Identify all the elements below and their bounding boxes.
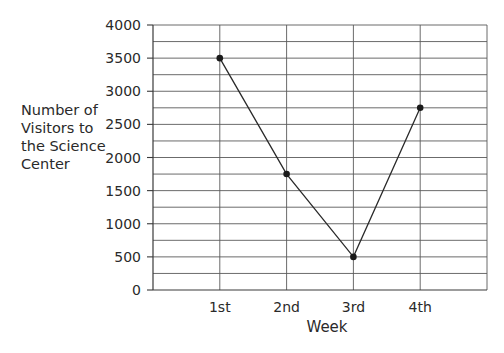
y-tick-label: 0 <box>132 282 141 298</box>
data-point-marker <box>217 55 224 62</box>
y-axis-title: Number of Visitors to the Science Center <box>21 101 106 173</box>
y-axis-title-line: Number of <box>21 101 106 119</box>
x-axis-ticks: 1st2nd3rd4th <box>209 299 432 315</box>
y-axis-title-line: Visitors to <box>21 119 106 137</box>
data-point-marker <box>350 254 357 261</box>
y-tick-label: 2500 <box>105 116 141 132</box>
y-tick-label: 4000 <box>105 17 141 33</box>
x-tick-label: 4th <box>409 299 432 315</box>
line-chart: 05001000150020002500300035004000 1st2nd3… <box>0 0 504 353</box>
x-tick-label: 1st <box>209 299 231 315</box>
y-tick-label: 3500 <box>105 50 141 66</box>
y-tick-label: 1500 <box>105 183 141 199</box>
y-tick-label: 3000 <box>105 83 141 99</box>
y-axis-title-line: the Science <box>21 137 106 155</box>
y-tick-label: 2000 <box>105 150 141 166</box>
y-tick-label: 1000 <box>105 216 141 232</box>
x-tick-label: 3rd <box>342 299 365 315</box>
x-tick-label: 2nd <box>273 299 300 315</box>
data-point-marker <box>283 171 290 178</box>
y-axis-title-line: Center <box>21 155 106 173</box>
data-point-marker <box>417 105 424 112</box>
grid-lines <box>153 25 487 290</box>
x-axis-title: Week <box>306 318 347 336</box>
y-tick-label: 500 <box>114 249 141 265</box>
y-axis-ticks: 05001000150020002500300035004000 <box>105 17 153 298</box>
